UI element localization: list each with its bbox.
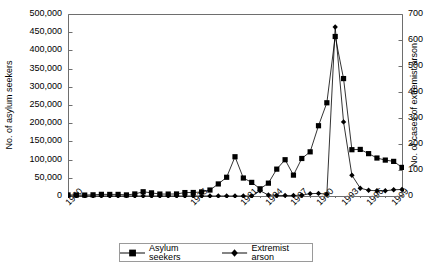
series-line — [68, 37, 402, 196]
y-axis-left-tick-label: 50,000 — [0, 173, 62, 182]
data-point-marker — [383, 188, 388, 193]
data-point-marker — [374, 155, 379, 160]
y-axis-left-tick-label: 450,000 — [0, 27, 62, 36]
data-point-marker — [374, 188, 379, 193]
legend-item-asylum-seekers: Asylum seekers — [120, 244, 210, 262]
data-point-marker — [341, 119, 346, 124]
series-line — [68, 27, 402, 196]
diamond-marker-icon — [222, 248, 247, 258]
data-point-marker — [391, 159, 396, 164]
y-axis-right-tick-label: 300 — [408, 113, 423, 122]
data-point-marker — [283, 157, 288, 162]
data-point-marker — [224, 175, 229, 180]
data-point-marker — [274, 193, 279, 198]
plot-canvas — [68, 14, 404, 198]
y-axis-right-tick-label: 700 — [408, 9, 423, 18]
y-axis-left-tick-label: 200,000 — [0, 118, 62, 127]
y-axis-right-tick-label: 600 — [408, 35, 423, 44]
data-point-marker — [249, 193, 254, 198]
data-point-marker — [399, 187, 404, 192]
data-point-marker — [274, 167, 279, 172]
y-axis-right-tick-label: 400 — [408, 87, 423, 96]
data-point-marker — [216, 193, 221, 198]
data-point-marker — [216, 181, 221, 186]
chart-legend: Asylum seekers Extremist arson — [119, 243, 313, 262]
data-point-marker — [241, 175, 246, 180]
legend-item-extremist-arson: Extremist arson — [222, 244, 312, 262]
y-axis-right-tick-label: 500 — [408, 61, 423, 70]
data-point-marker — [341, 76, 346, 81]
y-axis-left-tick-label: 100,000 — [0, 155, 62, 164]
legend-label: Asylum seekers — [149, 244, 210, 262]
chart-figure: No. of asylum seekers No. of cases of ex… — [0, 0, 430, 264]
data-point-marker — [316, 191, 321, 196]
y-axis-left-tick-label: 250,000 — [0, 100, 62, 109]
y-axis-left-tick-label: 150,000 — [0, 136, 62, 145]
y-axis-right-tick-label: 100 — [408, 165, 423, 174]
data-point-marker — [366, 188, 371, 193]
y-axis-left-tick-label: 350,000 — [0, 64, 62, 73]
data-point-marker — [358, 186, 363, 191]
data-point-marker — [383, 157, 388, 162]
data-point-marker — [291, 193, 296, 198]
y-axis-left-tick-label: 0 — [0, 191, 62, 200]
data-point-marker — [324, 100, 329, 105]
square-marker-icon — [120, 248, 145, 258]
data-point-marker — [249, 180, 254, 185]
legend-label: Extremist arson — [252, 244, 312, 262]
data-point-marker — [333, 24, 338, 29]
data-point-marker — [299, 156, 304, 161]
data-point-marker — [399, 165, 404, 170]
data-point-marker — [232, 193, 237, 198]
data-point-marker — [241, 193, 246, 198]
data-point-marker — [349, 147, 354, 152]
data-point-marker — [349, 173, 354, 178]
plot-area — [68, 14, 402, 196]
data-point-marker — [224, 193, 229, 198]
data-point-marker — [291, 173, 296, 178]
data-point-marker — [299, 193, 304, 198]
y-axis-right-tick-label: 200 — [408, 139, 423, 148]
data-point-marker — [282, 193, 287, 198]
data-point-marker — [207, 187, 212, 192]
y-axis-left-tick-label: 500,000 — [0, 9, 62, 18]
data-point-marker — [308, 149, 313, 154]
series-extremist-arson — [68, 24, 404, 198]
data-point-marker — [358, 147, 363, 152]
data-point-marker — [307, 191, 312, 196]
data-point-marker — [316, 123, 321, 128]
data-point-marker — [207, 193, 212, 198]
data-point-marker — [366, 151, 371, 156]
y-axis-left-tick-label: 300,000 — [0, 82, 62, 91]
data-point-marker — [391, 187, 396, 192]
y-axis-left-tick-label: 400,000 — [0, 45, 62, 54]
series-asylum-seekers — [68, 34, 404, 198]
data-point-marker — [232, 154, 237, 159]
data-point-marker — [266, 181, 271, 186]
